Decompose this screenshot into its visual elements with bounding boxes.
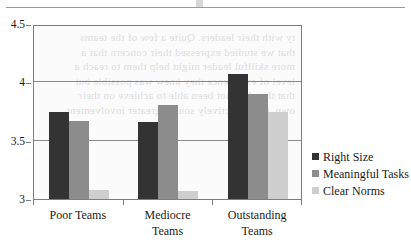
bar [69,121,89,199]
legend-swatch-icon [312,187,319,194]
y-tick-mark-3.5 [26,142,31,143]
bar-group [34,26,124,199]
x-axis: Poor TeamsMediocre TeamsOutstanding Team… [33,203,302,246]
bar-group [213,26,302,199]
y-tick-label-3.5: 3.5 [11,136,25,148]
y-tick-mark-3 [26,200,31,201]
x-tick-mark [212,200,213,205]
x-category-label: Mediocre Teams [123,208,213,239]
y-tick-mark-4 [26,83,31,84]
top-horizontal-rule [6,7,405,8]
x-tick-mark [123,200,124,205]
bar [138,122,158,199]
bar [248,94,268,199]
legend-label: Clear Norms [323,185,385,197]
legend-item: Right Size [312,148,410,165]
chart-legend: Right SizeMeaningful TasksClear Norms [312,148,410,199]
legend-label: Right Size [323,151,373,163]
x-category-label: Outstanding Teams [212,208,302,239]
y-tick-mark-4.5 [26,25,31,26]
bar [158,105,178,200]
bar-chart-figure: 33.544.5 ty with their leaders. Quite a … [0,0,411,246]
bar [89,190,109,199]
y-tick-label-4.5: 4.5 [11,19,25,31]
bar [228,74,248,199]
legend-swatch-icon [312,170,319,177]
bar [178,191,198,199]
bars-layer [34,26,301,199]
page-artifact-descender [196,0,203,7]
bar [268,112,288,200]
x-category-label: Poor Teams [33,208,123,224]
bar [49,112,69,200]
legend-item: Meaningful Tasks [312,165,410,182]
y-tick-label-4: 4 [19,77,25,89]
x-tick-mark [301,200,302,205]
legend-label: Meaningful Tasks [323,168,409,180]
bar-group [124,26,214,199]
legend-swatch-icon [312,153,319,160]
plot-area: ty with their leaders. Quite a few of th… [33,25,302,200]
legend-item: Clear Norms [312,182,410,199]
y-axis: 33.544.5 [0,0,31,246]
y-tick-label-3: 3 [19,194,25,206]
x-tick-mark [33,200,34,205]
